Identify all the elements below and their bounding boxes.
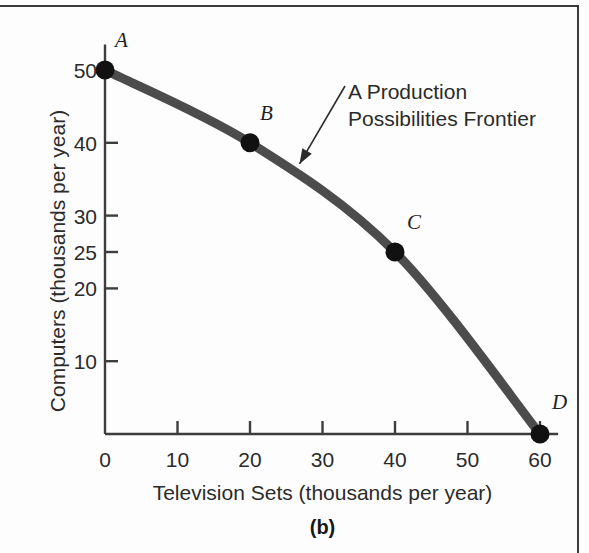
x-axis-title: Television Sets (thousands per year) (105, 481, 540, 505)
x-tick-label: 0 (99, 449, 111, 470)
annotation-leader-arrow (300, 86, 346, 164)
annotation-line-1: A Production (348, 78, 536, 105)
panel-label: (b) (105, 516, 540, 539)
x-tick-label: 30 (311, 449, 334, 470)
x-tick-label: 20 (238, 449, 261, 470)
data-point-marker (96, 61, 115, 80)
x-tick-label: 10 (166, 449, 189, 470)
y-tick-label: 50 (55, 60, 97, 81)
x-tick-label: 60 (528, 449, 551, 470)
y-axis-title: Computers (thousands per year) (46, 96, 70, 426)
figure-panel-b: 102025304050 0102030405060 ABCD A Produc… (0, 0, 589, 553)
data-point-label-b: B (260, 103, 273, 124)
data-point-marker (531, 425, 550, 444)
leader-arrowhead (300, 148, 312, 164)
x-tick-label: 50 (456, 449, 479, 470)
data-point-label-c: C (407, 212, 421, 233)
data-point-label-d: D (552, 392, 567, 413)
annotation-line-2: Possibilities Frontier (348, 105, 536, 132)
annotation-label: A Production Possibilities Frontier (348, 78, 536, 132)
data-point-marker (241, 133, 260, 152)
data-point-label-a: A (115, 30, 128, 51)
data-point-marker (386, 243, 405, 262)
x-tick-label: 40 (383, 449, 406, 470)
